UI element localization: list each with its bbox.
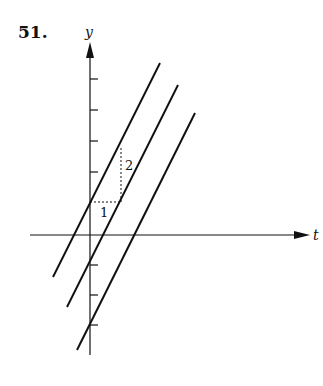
line-1 <box>53 63 160 277</box>
line-3 <box>77 113 195 350</box>
line-2 <box>67 85 178 307</box>
solution-lines <box>53 63 195 350</box>
t-axis-label: t <box>313 227 319 243</box>
y-axis-arrow-icon <box>86 42 94 58</box>
y-axis-label: y <box>84 24 94 40</box>
diagram: 51. y t 1 2 <box>0 0 323 386</box>
rise-label: 2 <box>125 158 133 173</box>
t-axis-arrow-icon <box>294 231 310 239</box>
run-label: 1 <box>100 205 108 220</box>
slope-field-plot: y t 1 2 <box>0 0 323 386</box>
